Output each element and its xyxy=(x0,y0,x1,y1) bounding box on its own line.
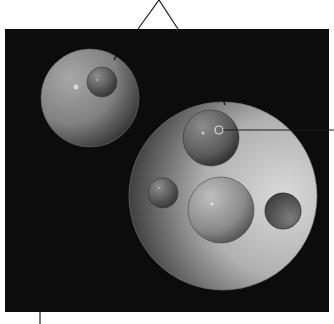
right-small-sphere xyxy=(265,193,301,229)
left-inner-highlight xyxy=(96,79,98,81)
top-inner-sphere xyxy=(183,110,239,166)
left-inner-sphere xyxy=(87,67,117,97)
middle-sphere-highlight xyxy=(211,203,214,206)
left-sphere-highlight xyxy=(74,85,79,90)
top-triangle-pointer xyxy=(138,0,178,29)
small-left-sphere xyxy=(148,178,178,208)
sphere-diagram xyxy=(0,0,334,324)
middle-sphere xyxy=(188,177,254,243)
top-inner-highlight xyxy=(202,132,205,135)
small-left-highlight xyxy=(158,187,160,189)
left-large-sphere xyxy=(41,49,139,147)
